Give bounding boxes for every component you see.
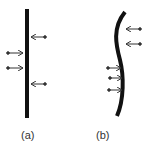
panel-b-figure bbox=[107, 12, 142, 116]
curved-beam bbox=[116, 12, 125, 116]
diagram-canvas bbox=[0, 0, 145, 148]
straight-beam bbox=[25, 9, 29, 118]
panel-a-label: (a) bbox=[21, 129, 34, 141]
panel-b-label: (b) bbox=[96, 129, 109, 141]
panel-a-figure bbox=[7, 9, 47, 118]
